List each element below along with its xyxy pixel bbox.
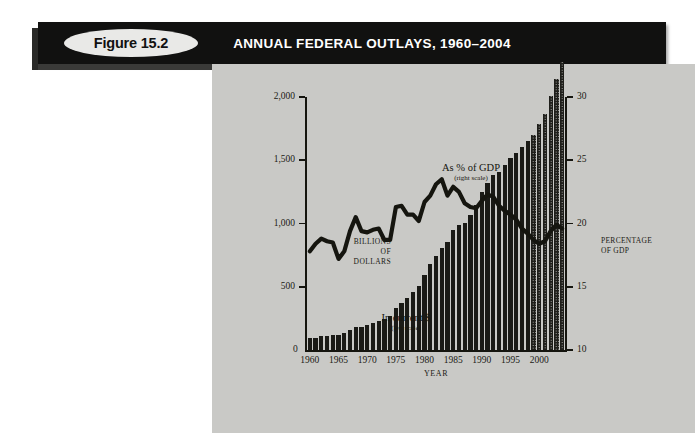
y-axis-right-title: PERCENTAGE OF GDP <box>601 236 681 255</box>
x-tick-label-1990: 1990 <box>472 355 491 365</box>
y-axis-left-title-line2: OF <box>303 247 391 257</box>
y-tick-label-right-25: 25 <box>577 154 587 164</box>
x-tick-label-1995: 1995 <box>501 355 520 365</box>
figure-number-badge: Figure 15.2 <box>64 29 198 57</box>
y-tick-left-500 <box>299 286 305 288</box>
y-axis-left-title-line1: BILLIONS <box>303 237 391 247</box>
y-axis-left-title-line3: DOLLARS <box>303 257 391 267</box>
annotation-percent-gdp-main: As % of GDP <box>417 162 525 174</box>
y-axis-right-title-line2: OF GDP <box>601 246 681 256</box>
y-tick-right-10 <box>567 349 573 351</box>
y-tick-right-20 <box>567 223 573 225</box>
x-tick-label-1960: 1960 <box>300 355 319 365</box>
annotation-percent-gdp: As % of GDP (right scale) <box>417 162 525 182</box>
y-tick-label-right-15: 15 <box>577 281 587 291</box>
x-tick-label-1965: 1965 <box>329 355 348 365</box>
x-tick-label-1980: 1980 <box>415 355 434 365</box>
annotation-percent-gdp-sub: (right scale) <box>417 174 525 182</box>
y-tick-left-1500 <box>299 159 305 161</box>
y-axis-zero-label: 0 <box>293 344 298 354</box>
y-tick-left-1000 <box>299 223 305 225</box>
chart-panel: 0 BILLIONS OF DOLLARS PERCENTAGE OF GDP … <box>212 64 695 433</box>
plot-area: 0 BILLIONS OF DOLLARS PERCENTAGE OF GDP … <box>305 97 567 352</box>
x-tick-label-1985: 1985 <box>444 355 463 365</box>
figure-header-bar: ANNUAL FEDERAL OUTLAYS, 1960–2004 Figure… <box>38 22 666 64</box>
y-tick-right-25 <box>567 159 573 161</box>
y-tick-label-right-30: 30 <box>577 91 587 101</box>
y-tick-right-30 <box>567 96 573 98</box>
y-axis-left-title: BILLIONS OF DOLLARS <box>303 237 391 267</box>
y-tick-right-15 <box>567 286 573 288</box>
y-tick-label-left-2000: 2,000 <box>274 91 295 101</box>
y-tick-label-right-20: 20 <box>577 218 587 228</box>
annotation-current-dollars: In current $ (left scale) <box>360 312 452 332</box>
y-tick-left-2000 <box>299 96 305 98</box>
x-tick-label-2000: 2000 <box>530 355 549 365</box>
y-axis-right-title-line1: PERCENTAGE <box>601 236 681 246</box>
y-tick-label-left-1000: 1,000 <box>274 218 295 228</box>
figure-number-label: Figure 15.2 <box>94 35 168 51</box>
annotation-current-dollars-sub: (left scale) <box>360 324 452 332</box>
x-tick-label-1970: 1970 <box>358 355 377 365</box>
x-axis-title: YEAR <box>305 369 567 378</box>
x-tick-label-1975: 1975 <box>386 355 405 365</box>
y-tick-label-right-10: 10 <box>577 344 587 354</box>
annotation-current-dollars-main: In current $ <box>360 312 452 324</box>
y-tick-label-left-500: 500 <box>281 281 295 291</box>
y-tick-label-left-1500: 1,500 <box>274 154 295 164</box>
